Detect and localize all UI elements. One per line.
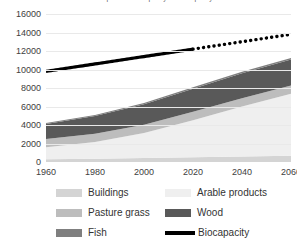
legend-item-buildings[interactable]: Buildings bbox=[56, 184, 129, 202]
legend-swatch-icon bbox=[56, 229, 82, 237]
legend-label: Biocapacity bbox=[198, 228, 249, 238]
y-axis: 0200040006000800010000120001400016000 bbox=[0, 0, 44, 182]
legend-swatch-icon bbox=[165, 189, 191, 197]
y-axis-tick-label: 14000 bbox=[16, 28, 41, 37]
legend-label: Wood bbox=[197, 208, 223, 218]
gridline bbox=[46, 107, 291, 108]
legend-swatch-icon bbox=[56, 209, 82, 217]
y-axis-tick-label: 4000 bbox=[21, 121, 41, 130]
y-axis-tick-label: 10000 bbox=[16, 65, 41, 74]
legend-swatch-icon bbox=[56, 189, 82, 197]
legend-item-pasture-grass[interactable]: Pasture grass bbox=[56, 204, 150, 222]
chart-title: Global production capacity vs biocapacit… bbox=[0, 0, 297, 2]
plot-area: Global production capacity vs biocapacit… bbox=[0, 0, 297, 182]
legend-label: Arable products bbox=[197, 188, 267, 198]
gridline bbox=[46, 144, 291, 145]
y-axis-tick-label: 12000 bbox=[16, 47, 41, 56]
x-axis-tick-label: 1980 bbox=[85, 168, 105, 177]
chart-container: Global production capacity vs biocapacit… bbox=[0, 0, 297, 247]
y-axis-tick-label: 8000 bbox=[21, 84, 41, 93]
line-series-biocapacity-solid bbox=[46, 49, 193, 71]
x-axis-tick-label: 2020 bbox=[183, 168, 203, 177]
legend-swatch-icon bbox=[165, 209, 191, 217]
y-axis-tick-label: 2000 bbox=[21, 139, 41, 148]
plot-panel bbox=[46, 14, 291, 162]
gridline bbox=[46, 70, 291, 71]
gridline bbox=[46, 88, 291, 89]
legend-label: Buildings bbox=[88, 188, 129, 198]
x-axis-tick-label: 2060 bbox=[281, 168, 297, 177]
legend-label: Fish bbox=[88, 228, 107, 238]
x-axis-tick-label: 2000 bbox=[134, 168, 154, 177]
legend-item-arable-products[interactable]: Arable products bbox=[165, 184, 267, 202]
legend-swatch-icon bbox=[165, 231, 195, 235]
legend-item-wood[interactable]: Wood bbox=[165, 204, 223, 222]
line-series-biocapacity-dotted bbox=[193, 34, 291, 49]
x-axis-tick-label: 1960 bbox=[36, 168, 56, 177]
legend-item-biocapacity[interactable]: Biocapacity bbox=[165, 224, 249, 242]
gridline bbox=[46, 125, 291, 126]
y-axis-tick-label: 6000 bbox=[21, 102, 41, 111]
chart-legend: BuildingsArable productsPasture grassWoo… bbox=[0, 184, 297, 247]
x-axis: 196019802000202020402060 bbox=[44, 162, 293, 182]
y-axis-tick-label: 16000 bbox=[16, 10, 41, 19]
x-axis-tick-label: 2040 bbox=[232, 168, 252, 177]
gridline bbox=[46, 33, 291, 34]
gridline bbox=[46, 51, 291, 52]
legend-label: Pasture grass bbox=[88, 208, 150, 218]
gridline bbox=[46, 14, 291, 15]
y-axis-tick-label: 0 bbox=[36, 158, 41, 167]
legend-item-fish[interactable]: Fish bbox=[56, 224, 107, 242]
